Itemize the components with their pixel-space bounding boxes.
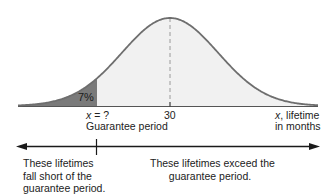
x-axis-label-line2: in months — [275, 120, 321, 132]
fall-short-note-line: These lifetimes — [23, 157, 105, 170]
mean-tick-label: 30 — [164, 109, 176, 121]
curve-body-area — [18, 18, 318, 106]
normal-distribution-figure: 7% x = ? Guarantee period 30 x, lifetime… — [0, 0, 336, 195]
tail-percent-label: 7% — [78, 91, 94, 103]
exceed-note-line: These lifetimes exceed the — [150, 157, 270, 170]
fall-short-note-line: fall short of the — [23, 170, 105, 183]
fall-short-note-line: guarantee period. — [23, 182, 105, 195]
exceed-note-line: guarantee period. — [150, 170, 270, 183]
fall-short-note: These lifetimes fall short of the guaran… — [23, 157, 105, 195]
arrow-right-head-icon — [309, 143, 320, 150]
guarantee-period-caption: Guarantee period — [86, 120, 168, 132]
exceed-note: These lifetimes exceed the guarantee per… — [150, 157, 270, 182]
arrow-left-head-icon — [16, 143, 27, 150]
